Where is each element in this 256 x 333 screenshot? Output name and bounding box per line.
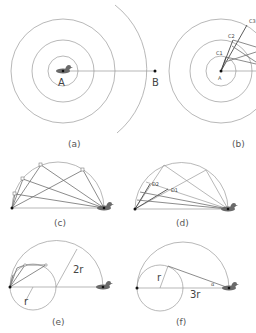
caption-d: (d) xyxy=(176,218,189,228)
label-c1: C1 xyxy=(216,50,223,56)
geometry-figure: A B (a) A C1 C2 C3 (b) xyxy=(0,0,256,333)
label-e-2r: 2r xyxy=(73,264,84,275)
label-f-alpha: α xyxy=(211,281,215,287)
label-b-center: A xyxy=(218,75,222,81)
panel-e: r 2r (e) xyxy=(9,241,114,328)
label-c2: C2 xyxy=(228,33,235,39)
label-e-r: r xyxy=(24,296,29,307)
label-a-center: A xyxy=(58,77,65,88)
panel-a: A B (a) xyxy=(11,5,159,149)
panel-b: A C1 C2 C3 (b) xyxy=(169,18,256,149)
dot-icon xyxy=(154,70,157,73)
label-f-3r: 3r xyxy=(190,289,201,300)
panel-f: r 3r α (f) xyxy=(136,242,240,327)
duck-icon xyxy=(56,65,73,74)
panel-c: (c) xyxy=(11,162,115,228)
caption-f: (f) xyxy=(176,317,186,327)
caption-c: (c) xyxy=(54,218,66,228)
caption-a: (a) xyxy=(68,139,81,149)
duck-icon xyxy=(97,202,114,211)
label-d1: D1 xyxy=(171,187,178,193)
caption-e: (e) xyxy=(52,317,65,327)
label-b-target: B xyxy=(152,77,159,88)
label-f-r: r xyxy=(157,272,162,283)
label-c3: C3 xyxy=(249,18,256,24)
duck-icon xyxy=(222,282,239,291)
duck-icon xyxy=(96,281,113,290)
panel-d: D2 D1 (d) xyxy=(134,163,239,229)
duck-icon xyxy=(221,203,238,212)
caption-b: (b) xyxy=(232,139,245,149)
label-d2: D2 xyxy=(152,181,159,187)
